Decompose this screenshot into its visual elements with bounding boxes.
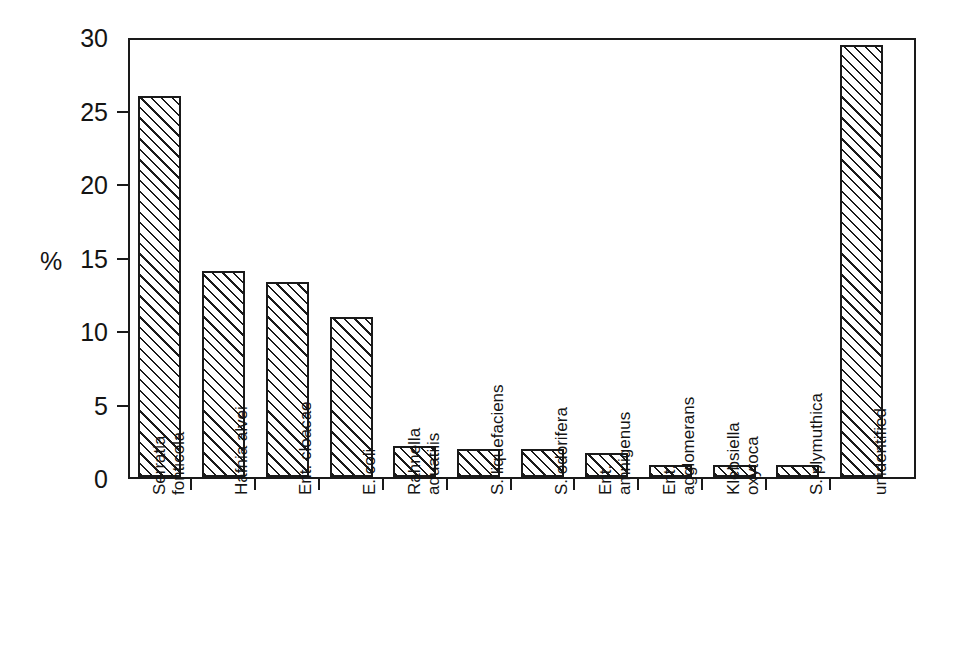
x-axis-label-line: fonticola bbox=[169, 432, 188, 495]
y-tick-label: 15 bbox=[66, 244, 108, 273]
x-axis-label-line: Ent. bbox=[660, 397, 679, 495]
x-axis-label: unidentified bbox=[871, 495, 958, 514]
x-tick-mark bbox=[446, 479, 448, 490]
x-axis-label-line: Rahnella bbox=[405, 428, 424, 495]
x-tick-mark bbox=[829, 479, 831, 490]
y-tick-label: 0 bbox=[66, 465, 108, 494]
x-axis-label-line: oxytoca bbox=[743, 422, 762, 495]
x-axis-label-line: amnigenus bbox=[615, 412, 634, 495]
x-axis-label-line: Ent. bbox=[596, 412, 615, 495]
y-tick-label: 10 bbox=[66, 318, 108, 347]
y-tick-label: 25 bbox=[66, 97, 108, 126]
x-tick-mark bbox=[190, 479, 192, 490]
x-axis-label-line: unidentified bbox=[871, 408, 890, 495]
y-tick-label: 20 bbox=[66, 171, 108, 200]
x-tick-mark bbox=[701, 479, 703, 490]
x-axis-label-line: Serratia bbox=[150, 432, 169, 495]
y-tick-label: 30 bbox=[66, 24, 108, 53]
x-axis-label-line: S. liquefaciens bbox=[488, 384, 507, 495]
x-axis-label-line: aquatilis bbox=[424, 428, 443, 495]
bar bbox=[138, 96, 181, 477]
x-tick-mark bbox=[637, 479, 639, 490]
x-tick-mark bbox=[254, 479, 256, 490]
x-axis-label-line: Klebsiella bbox=[724, 422, 743, 495]
x-axis-label: Rahnellaaquatilis bbox=[424, 495, 472, 533]
y-axis-title: % bbox=[40, 247, 62, 276]
x-tick-mark bbox=[573, 479, 575, 490]
x-axis-label-line: E. coli bbox=[360, 449, 379, 495]
x-axis-label: Ent.amnigenus bbox=[615, 495, 679, 533]
x-axis-label-line: Ent. cloacae bbox=[296, 401, 315, 495]
x-tick-mark bbox=[765, 479, 767, 490]
x-tick-mark bbox=[510, 479, 512, 490]
x-axis-label: E. coli bbox=[360, 495, 406, 514]
x-axis-label-line: S. plymuthica bbox=[807, 393, 826, 495]
x-tick-mark bbox=[318, 479, 320, 490]
x-axis-label-line: S. odorifera bbox=[552, 407, 571, 495]
x-axis-label-line: agglomerans bbox=[679, 397, 698, 495]
x-axis-label-line: Hafnia alvei bbox=[232, 406, 251, 495]
x-tick-mark bbox=[382, 479, 384, 490]
x-axis-label: Serratiafonticola bbox=[169, 495, 213, 533]
x-axis-label: Klebsiellaoxytoca bbox=[743, 495, 797, 533]
y-tick-label: 5 bbox=[66, 391, 108, 420]
bar-chart-figure: % 051015202530 SerratiafonticolaHafnia a… bbox=[0, 0, 964, 650]
